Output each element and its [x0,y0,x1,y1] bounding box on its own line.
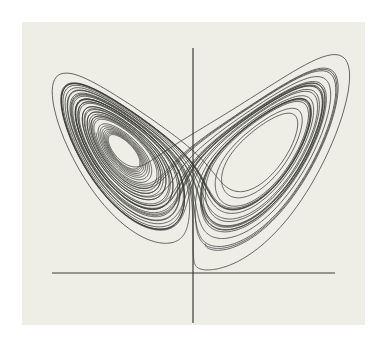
attractor-trajectory [52,55,349,270]
lorenz-attractor-plot [0,0,376,340]
